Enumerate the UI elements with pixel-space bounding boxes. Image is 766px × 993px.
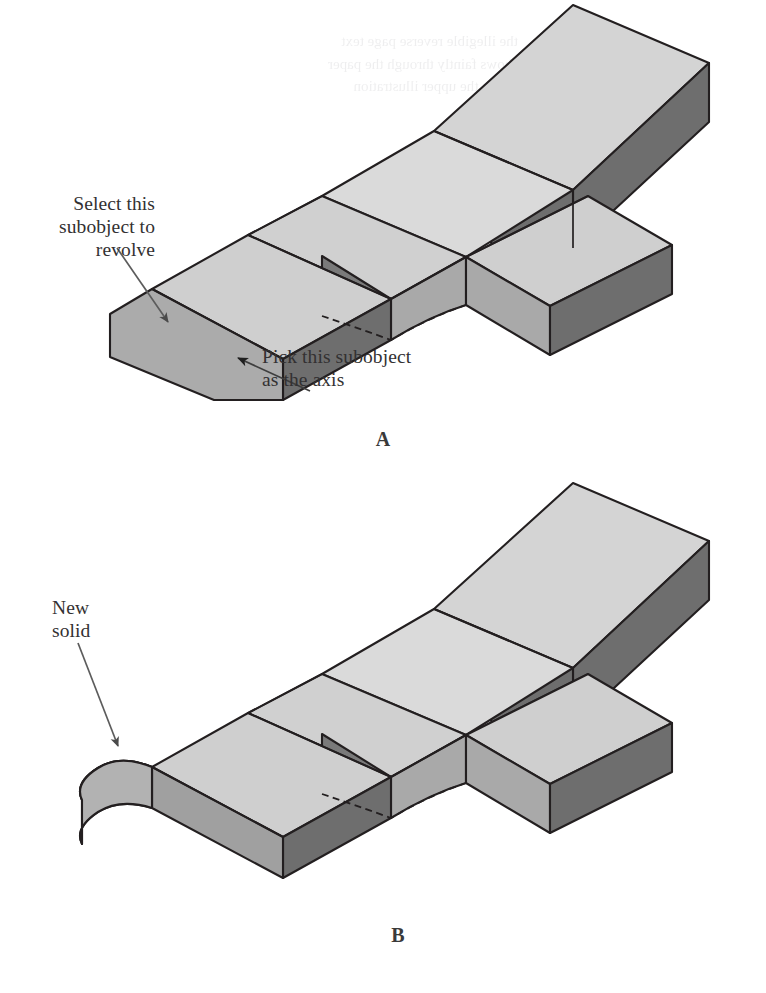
figure-a: Select this subobject to revolve Pick th… [0, 0, 766, 480]
figure-page: the illegible reverse page text shows fa… [0, 0, 766, 993]
figure-b: New solid B [0, 478, 766, 993]
figure-b-illustration [0, 478, 766, 993]
leader-new-solid [78, 643, 118, 746]
face-new-solid-round-side [80, 761, 152, 844]
select-subobject-callout: Select this subobject to revolve [10, 192, 155, 261]
solid-b-geometry [80, 483, 709, 878]
figure-label-b: B [383, 924, 413, 947]
new-solid-callout: New solid [52, 596, 182, 642]
pick-axis-callout: Pick this subobject as the axis [262, 345, 512, 391]
solid-a-geometry [110, 5, 709, 400]
figure-label-a: A [368, 428, 398, 451]
